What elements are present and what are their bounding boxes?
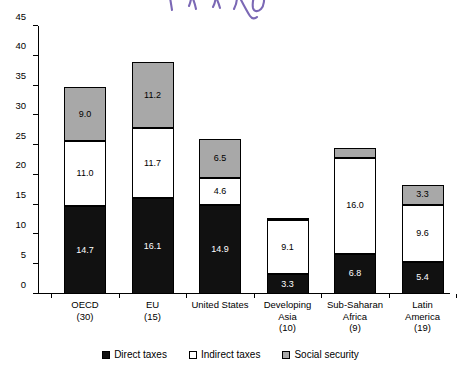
y-tick-label: 5 xyxy=(21,250,26,260)
category-label-line: (19) xyxy=(375,322,461,334)
bar-segment-value-label: 11.2 xyxy=(144,91,161,100)
y-tick-label: 15 xyxy=(15,190,26,200)
bar-segment[interactable]: 4.6 xyxy=(199,178,241,205)
bar-segment[interactable]: 9.1 xyxy=(267,220,309,274)
bar-segment-value-label: 5.4 xyxy=(416,273,429,282)
x-tick xyxy=(389,294,390,298)
legend-label: Indirect taxes xyxy=(201,349,260,360)
y-tick: 10 xyxy=(33,233,38,234)
y-tick: 35 xyxy=(33,85,38,86)
bar-segment-value-label: 4.6 xyxy=(214,187,227,196)
x-tick xyxy=(186,294,187,298)
x-tick xyxy=(119,294,120,298)
bar-segment[interactable]: 3.3 xyxy=(402,185,444,205)
x-tick xyxy=(51,294,52,298)
bar-segment[interactable]: 16.0 xyxy=(334,158,376,253)
y-tick-label: 10 xyxy=(15,220,26,230)
legend-item[interactable]: Indirect taxes xyxy=(189,349,260,360)
bar-segment[interactable]: 0.1 xyxy=(267,218,309,220)
bar-segment-value-label: 6.5 xyxy=(214,154,227,163)
bar-segment-value-label: 3.3 xyxy=(416,190,429,199)
handwriting-annotation xyxy=(160,0,290,20)
bar-segment-value-label: 9.1 xyxy=(281,243,294,252)
y-tick-label: 35 xyxy=(15,71,26,81)
bar-segment-value-label: 16.0 xyxy=(346,201,364,210)
bar-segment-value-label: 16.1 xyxy=(144,242,162,251)
bar[interactable]: 16.111.711.2 xyxy=(132,62,174,294)
bar-segment[interactable]: 14.7 xyxy=(64,206,106,294)
bar-segment[interactable]: 9.6 xyxy=(402,205,444,262)
chart-legend: Direct taxesIndirect taxesSocial securit… xyxy=(0,349,461,360)
y-tick: 15 xyxy=(33,204,38,205)
y-tick: 0 xyxy=(33,293,38,294)
bar[interactable]: 3.39.10.1 xyxy=(267,220,309,294)
bar-segment-value-label: 9.6 xyxy=(416,229,429,238)
y-tick: 30 xyxy=(33,114,38,115)
legend-item[interactable]: Direct taxes xyxy=(102,349,167,360)
legend-label: Social security xyxy=(294,349,358,360)
y-tick-label: 30 xyxy=(15,101,26,111)
legend-item[interactable]: Social security xyxy=(282,349,358,360)
y-tick: 40 xyxy=(33,55,38,56)
x-axis-category-label: LatinAmerica(19) xyxy=(375,299,461,334)
x-tick xyxy=(254,294,255,298)
bar-segment[interactable]: 11.7 xyxy=(132,128,174,198)
legend-swatch-social xyxy=(282,351,290,359)
y-tick-label: 45 xyxy=(15,12,26,22)
bar-segment[interactable]: 1.7 xyxy=(334,148,376,158)
bar-segment-value-label: 6.8 xyxy=(349,269,362,278)
bar-segment-value-label: 3.3 xyxy=(281,280,294,289)
y-tick: 5 xyxy=(33,263,38,264)
legend-swatch-indirect xyxy=(189,351,197,359)
category-label-line: (15) xyxy=(105,311,201,323)
bar-segment[interactable]: 6.8 xyxy=(334,254,376,294)
y-tick: 25 xyxy=(33,144,38,145)
bar-segment[interactable]: 3.3 xyxy=(267,274,309,294)
y-tick: 20 xyxy=(33,174,38,175)
bar-segment[interactable]: 6.5 xyxy=(199,139,241,178)
bar-segment-value-label: 11.0 xyxy=(77,169,94,178)
bar-segment-value-label: 11.7 xyxy=(144,159,161,168)
y-tick-label: 25 xyxy=(15,131,26,141)
bar-segment-value-label: 14.7 xyxy=(76,246,94,255)
stacked-bar-chart: 051015202530354045 14.711.09.016.111.711… xyxy=(0,0,461,371)
bar-segment[interactable]: 16.1 xyxy=(132,198,174,294)
category-label-line: America xyxy=(375,311,461,323)
bar[interactable]: 5.49.63.3 xyxy=(402,185,444,294)
bar[interactable]: 14.711.09.0 xyxy=(64,87,106,294)
bar-segment[interactable]: 9.0 xyxy=(64,87,106,141)
bar[interactable]: 6.816.01.7 xyxy=(334,148,376,294)
y-tick-label: 0 xyxy=(21,280,26,290)
plot-area: 051015202530354045 14.711.09.016.111.711… xyxy=(38,26,450,294)
bar-segment[interactable]: 11.0 xyxy=(64,141,106,207)
bar-segment-value-label: 9.0 xyxy=(79,110,92,119)
y-tick-label: 20 xyxy=(15,161,26,171)
x-tick xyxy=(456,294,457,298)
y-axis xyxy=(38,26,39,294)
bar-segment[interactable]: 14.9 xyxy=(199,205,241,294)
x-tick xyxy=(321,294,322,298)
category-label-line: Latin xyxy=(375,299,461,311)
bar-segment[interactable]: 11.2 xyxy=(132,62,174,129)
bar-segment[interactable]: 5.4 xyxy=(402,262,444,294)
legend-label: Direct taxes xyxy=(114,349,167,360)
bar[interactable]: 14.94.66.5 xyxy=(199,139,241,294)
legend-swatch-direct xyxy=(102,351,110,359)
y-tick-label: 40 xyxy=(15,42,26,52)
y-tick: 45 xyxy=(33,25,38,26)
bar-segment-value-label: 14.9 xyxy=(211,245,229,254)
